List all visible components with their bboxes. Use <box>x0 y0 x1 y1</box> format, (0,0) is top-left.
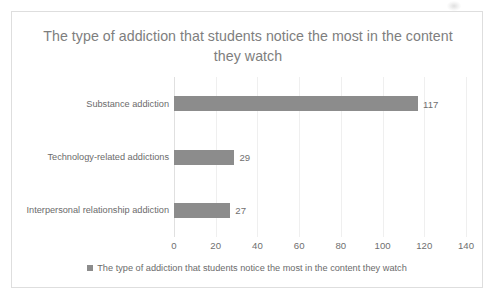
chart-container: The type of addiction that students noti… <box>11 11 483 288</box>
x-tick-label: 120 <box>416 240 432 251</box>
x-tick-label: 80 <box>336 240 347 251</box>
category-label: Substance addiction <box>86 99 169 109</box>
bar[interactable] <box>174 96 418 111</box>
x-tick-label: 0 <box>171 240 176 251</box>
bar-row: Substance addiction117 <box>174 96 466 111</box>
bar-row: Interpersonal relationship addiction27 <box>174 203 466 218</box>
bar[interactable] <box>174 150 234 165</box>
chart-title: The type of addiction that students noti… <box>42 26 454 66</box>
bar-value-label: 29 <box>239 152 250 163</box>
legend-label: The type of addiction that students noti… <box>97 263 407 273</box>
plot-area: Substance addiction117Technology-related… <box>174 77 466 237</box>
legend-marker-icon <box>87 265 93 271</box>
x-tick-label: 40 <box>252 240 263 251</box>
bar-value-label: 117 <box>423 98 438 109</box>
gridline <box>466 77 467 237</box>
bar[interactable] <box>174 203 230 218</box>
x-tick-label: 60 <box>294 240 305 251</box>
x-tick-label: 140 <box>458 240 474 251</box>
category-label: Technology-related addictions <box>47 152 169 162</box>
chart-legend: The type of addiction that students noti… <box>12 263 482 273</box>
category-label: Interpersonal relationship addiction <box>27 205 170 215</box>
bar-value-label: 27 <box>235 205 246 216</box>
scan-artifact <box>447 1 461 11</box>
bar-row: Technology-related addictions29 <box>174 150 466 165</box>
x-tick-label: 20 <box>210 240 221 251</box>
x-tick-label: 100 <box>375 240 391 251</box>
